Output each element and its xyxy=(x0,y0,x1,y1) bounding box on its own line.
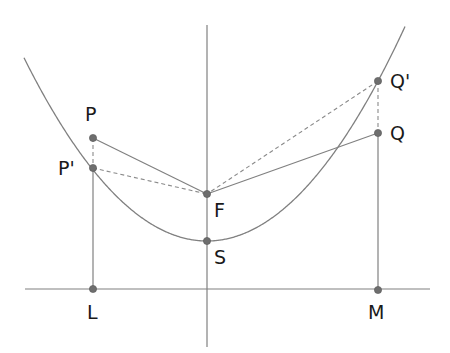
label-Q: Q xyxy=(390,124,405,143)
point-l xyxy=(89,285,96,292)
points xyxy=(89,77,381,293)
label-P-prime: P' xyxy=(58,159,75,178)
segment-Q-F xyxy=(207,133,378,194)
point-q xyxy=(374,129,381,136)
segment-Q-prime-F xyxy=(207,81,378,194)
label-L: L xyxy=(87,303,98,322)
segment-P-F xyxy=(93,138,207,194)
point-p-prime xyxy=(89,164,96,171)
point-s xyxy=(203,237,210,244)
label-Q-prime: Q' xyxy=(390,72,410,91)
construction-lines xyxy=(25,25,430,347)
label-P: P xyxy=(85,105,96,124)
label-M: M xyxy=(368,303,384,322)
point-m xyxy=(374,286,381,293)
label-F: F xyxy=(214,201,225,220)
label-S: S xyxy=(214,248,226,267)
point-f xyxy=(203,190,210,197)
point-q-prime xyxy=(374,77,381,84)
point-p xyxy=(89,134,96,141)
